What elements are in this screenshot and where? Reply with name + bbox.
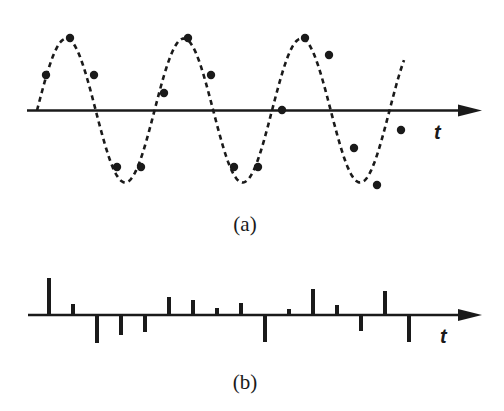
- sample-dot: [278, 106, 286, 114]
- sample-dot: [207, 71, 215, 79]
- impulse-bar: [167, 297, 171, 315]
- axis-arrowhead-a-icon: [458, 105, 482, 117]
- sample-dot: [373, 181, 381, 189]
- impulse-bar: [143, 315, 147, 332]
- caption-b: (b): [215, 370, 275, 395]
- sample-dot: [160, 89, 168, 97]
- sample-dot: [325, 51, 333, 59]
- sample-dot: [184, 34, 192, 42]
- impulse-bar: [359, 315, 363, 331]
- impulse-bar: [119, 315, 123, 335]
- impulse-bar: [71, 304, 75, 315]
- impulse-bar: [407, 315, 411, 342]
- impulse-bar: [263, 315, 267, 342]
- sample-dot: [66, 34, 74, 42]
- impulse-bar: [311, 289, 315, 315]
- sample-dot: [137, 163, 145, 171]
- impulse-bar: [287, 309, 291, 315]
- sample-dot: [230, 163, 238, 171]
- sampling-diagram: t t: [0, 0, 504, 411]
- impulse-bar: [215, 308, 219, 315]
- sample-dot: [350, 144, 358, 152]
- panel-a-continuous-signal: t: [27, 34, 482, 189]
- axis-label-t-a: t: [434, 121, 442, 143]
- sample-dot: [113, 163, 121, 171]
- impulse-bar: [239, 303, 243, 315]
- sample-dot: [42, 71, 50, 79]
- impulse-bar: [383, 291, 387, 315]
- impulse-bar: [335, 305, 339, 315]
- sample-dot: [90, 71, 98, 79]
- sample-dot: [301, 34, 309, 42]
- impulse-bar: [47, 278, 51, 315]
- caption-a: (a): [215, 212, 275, 237]
- axis-label-t-b: t: [440, 325, 448, 347]
- impulse-bars: [47, 278, 411, 343]
- sample-dot: [397, 126, 405, 134]
- sample-dot: [254, 163, 262, 171]
- axis-arrowhead-b-icon: [458, 309, 482, 321]
- panel-b-discrete-samples: t: [28, 278, 482, 347]
- impulse-bar: [191, 300, 195, 315]
- impulse-bar: [95, 315, 99, 343]
